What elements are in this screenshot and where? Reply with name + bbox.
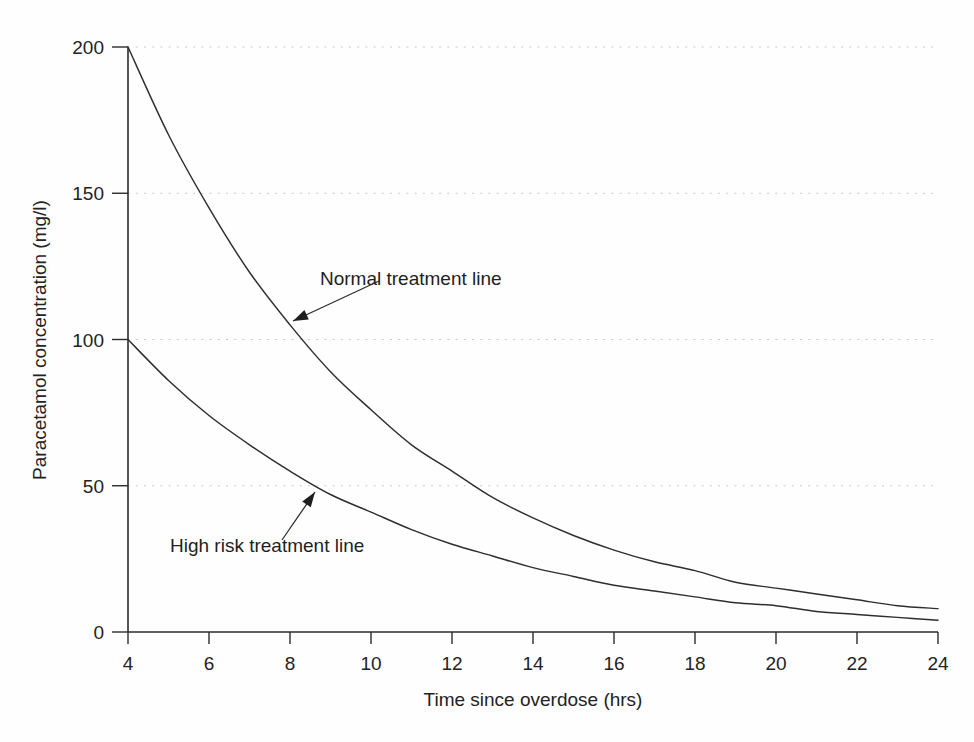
annotation-label-0: Normal treatment line: [320, 268, 502, 289]
annotation-label-1: High risk treatment line: [170, 535, 364, 556]
curve-series-1: [128, 340, 938, 621]
x-tick-label-24: 24: [927, 653, 949, 674]
y-tick-label-150: 150: [72, 183, 104, 204]
y-tick-label-200: 200: [72, 37, 104, 58]
x-tick-label-12: 12: [441, 653, 462, 674]
x-tick-group: 4681012141618202224: [123, 632, 949, 674]
curve-series-0: [128, 47, 938, 609]
x-axis-title: Time since overdose (hrs): [424, 689, 643, 710]
annotation-group: Normal treatment lineHigh risk treatment…: [170, 268, 502, 556]
y-tick-label-50: 50: [83, 476, 104, 497]
x-tick-label-16: 16: [603, 653, 624, 674]
x-tick-label-4: 4: [123, 653, 134, 674]
x-tick-label-6: 6: [204, 653, 215, 674]
annotation-arrowhead-1: [302, 492, 315, 507]
x-tick-label-14: 14: [522, 653, 544, 674]
y-tick-group: 050100150200: [72, 37, 128, 643]
x-tick-label-18: 18: [684, 653, 705, 674]
y-axis-title: Paracetamol concentration (mg/l): [29, 200, 50, 480]
y-tick-label-100: 100: [72, 330, 104, 351]
paracetamol-treatment-graph: 050100150200 4681012141618202224 Normal …: [0, 0, 974, 742]
gridline-group: [128, 47, 938, 486]
annotation-arrowhead-0: [293, 310, 309, 321]
x-tick-label-10: 10: [360, 653, 381, 674]
x-tick-label-20: 20: [765, 653, 786, 674]
y-tick-label-0: 0: [93, 622, 104, 643]
chart-figure: 050100150200 4681012141618202224 Normal …: [0, 0, 974, 742]
x-tick-label-8: 8: [285, 653, 296, 674]
x-tick-label-22: 22: [846, 653, 867, 674]
